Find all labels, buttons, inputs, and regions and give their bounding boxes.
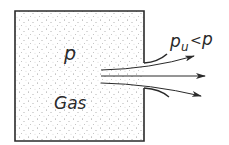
upper-nozzle-lip	[144, 54, 167, 63]
outer-pressure-label: p	[169, 31, 181, 51]
comparison-pressure-label: p	[201, 29, 213, 49]
less-than-symbol: <	[190, 32, 202, 48]
gas-outflow-diagram: p Gas p u < p	[0, 0, 229, 145]
outer-pressure-subscript: u	[181, 40, 189, 54]
gas-label: Gas	[54, 93, 87, 113]
inner-pressure-label: p	[63, 42, 76, 64]
